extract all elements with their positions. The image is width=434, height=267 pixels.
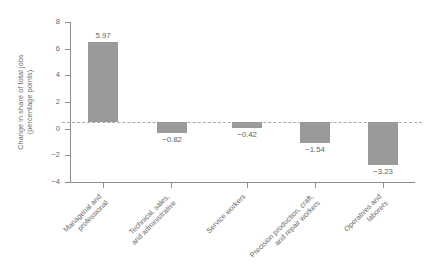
x-tick-mark bbox=[247, 183, 248, 188]
bar-managerial-and-professional bbox=[88, 42, 118, 122]
y-tick-label: −4 bbox=[20, 178, 60, 186]
bar-value-label: −0.82 bbox=[152, 135, 192, 144]
bar-value-label: −3.23 bbox=[363, 167, 403, 176]
y-tick-label: 0 bbox=[20, 125, 60, 133]
y-tick-mark bbox=[65, 22, 70, 23]
y-tick-mark bbox=[65, 49, 70, 50]
y-tick-mark bbox=[65, 182, 70, 183]
x-tick-mark bbox=[171, 183, 172, 188]
x-category-label-managerial-and-professional: Managerial and professional bbox=[0, 192, 110, 267]
bar-technical-sales-and-administrative bbox=[157, 122, 187, 133]
bar-value-label: 5.97 bbox=[83, 31, 123, 40]
y-tick-label: 6 bbox=[20, 45, 60, 53]
y-tick-label: −2 bbox=[20, 151, 60, 159]
y-axis-line bbox=[70, 22, 71, 183]
bar-precision-production-craft-and-repair-workers bbox=[300, 122, 330, 143]
y-tick-mark bbox=[65, 129, 70, 130]
bar-value-label: −0.42 bbox=[227, 130, 267, 139]
bar-value-label: −1.54 bbox=[295, 145, 335, 154]
y-tick-mark bbox=[65, 155, 70, 156]
y-tick-label: 8 bbox=[20, 18, 60, 26]
x-axis-line bbox=[70, 182, 415, 183]
bar-service-workers bbox=[232, 122, 262, 128]
y-tick-mark bbox=[65, 102, 70, 103]
x-tick-mark bbox=[315, 183, 316, 188]
x-tick-mark bbox=[383, 183, 384, 188]
y-tick-label: 2 bbox=[20, 98, 60, 106]
bar-chart-figure: Change in share of total jobs (percentag… bbox=[0, 0, 434, 267]
x-tick-mark bbox=[103, 183, 104, 188]
bar-operatives-and-laborers bbox=[368, 122, 398, 165]
x-category-label-precision-production-craft-and-repair-workers: Precision production, craft, and repair … bbox=[203, 192, 322, 267]
y-tick-mark bbox=[65, 75, 70, 76]
y-tick-label: 4 bbox=[20, 71, 60, 79]
